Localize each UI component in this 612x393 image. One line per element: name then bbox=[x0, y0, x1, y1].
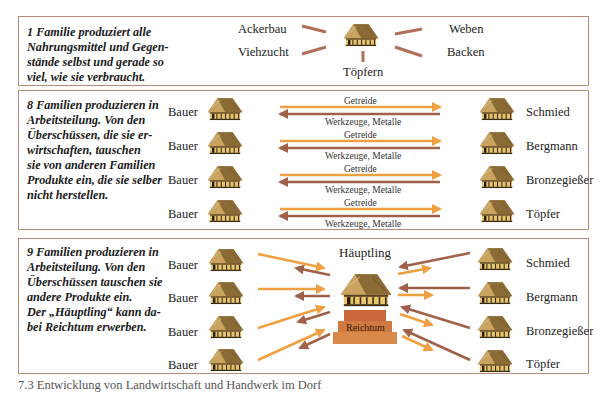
family-label-left: Bauer bbox=[168, 358, 198, 373]
wealth-tier bbox=[333, 332, 397, 344]
house-icon bbox=[204, 247, 248, 273]
house-icon bbox=[473, 314, 517, 340]
house-icon bbox=[473, 348, 517, 374]
house-icon bbox=[204, 347, 248, 373]
figure-caption: 7.3 Entwicklung von Landwirtschaft und H… bbox=[18, 378, 321, 393]
family-label-left: Bauer bbox=[168, 258, 198, 273]
house-icon bbox=[204, 280, 248, 306]
chief-house-icon bbox=[334, 271, 398, 309]
house-icon bbox=[473, 246, 517, 272]
family-label-right: Schmied bbox=[526, 256, 570, 271]
family-label-left: Bauer bbox=[168, 325, 198, 340]
family-label-right: Bronzegießer bbox=[526, 324, 593, 339]
chief-label: Häuptling bbox=[339, 245, 391, 261]
family-label-right: Töpfer bbox=[526, 357, 560, 372]
house-icon bbox=[204, 314, 248, 340]
family-label-right: Bergmann bbox=[526, 290, 578, 305]
family-label-left: Bauer bbox=[168, 291, 198, 306]
house-icon bbox=[473, 280, 517, 306]
wealth-label: Reichtum bbox=[346, 322, 385, 333]
